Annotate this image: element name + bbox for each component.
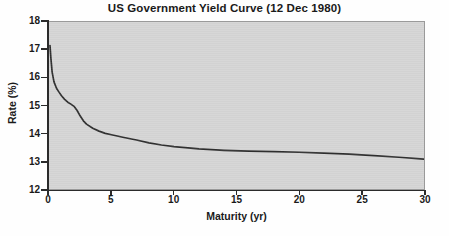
y-axis-tick [41, 20, 47, 21]
y-axis-tick [41, 48, 47, 49]
yield-curve-figure: US Government Yield Curve (12 Dec 1980) … [0, 0, 449, 236]
y-axis-line [47, 20, 49, 191]
x-axis-tick-label: 15 [222, 194, 252, 205]
plot-area [48, 21, 425, 190]
x-axis-tick-label: 10 [159, 194, 189, 205]
x-axis-tick-label: 0 [33, 194, 63, 205]
y-axis-tick [41, 161, 47, 162]
x-axis-tick-label: 30 [410, 194, 440, 205]
y-axis-tick-label: 18 [14, 15, 40, 26]
yield-curve-plot-svg [49, 22, 424, 189]
x-axis-tick-label: 20 [284, 194, 314, 205]
y-axis-tick-label: 13 [14, 156, 40, 167]
chart-title: US Government Yield Curve (12 Dec 1980) [0, 2, 449, 14]
yield-curve-line [50, 46, 424, 160]
x-axis-tick-label: 25 [347, 194, 377, 205]
y-axis-tick [41, 77, 47, 78]
y-axis-title: Rate (%) [6, 67, 18, 139]
y-axis-tick [41, 189, 47, 190]
x-axis-tick-label: 5 [96, 194, 126, 205]
x-axis-title: Maturity (yr) [48, 210, 425, 222]
y-axis-tick [41, 105, 47, 106]
y-axis-tick [41, 133, 47, 134]
y-axis-tick-label: 17 [14, 43, 40, 54]
